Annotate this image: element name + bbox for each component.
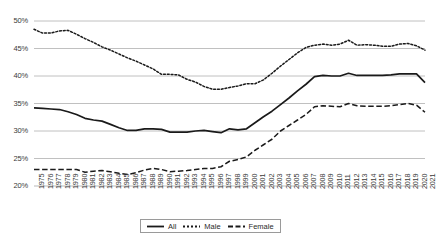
x-axis-tick-label: 1977 xyxy=(54,174,63,189)
legend-label: Male xyxy=(204,222,220,231)
x-axis-tick-label: 2007 xyxy=(309,174,318,189)
chart-legend: AllMaleFemale xyxy=(140,219,281,233)
x-axis-tick-label: 1975 xyxy=(37,174,46,189)
x-axis-tick-label: 1999 xyxy=(241,174,250,189)
x-axis-tick-label: 1979 xyxy=(71,174,80,189)
x-axis-tick-label: 1987 xyxy=(139,174,148,189)
legend-swatch-dashed xyxy=(228,223,245,230)
y-axis-tick-label: 25% xyxy=(2,154,28,163)
x-axis-tick-label: 1997 xyxy=(224,174,233,189)
legend-item-all: All xyxy=(147,222,176,231)
x-axis-tick-label: 2021 xyxy=(428,174,437,189)
x-axis-tick-label: 2003 xyxy=(275,174,284,189)
series-lines xyxy=(34,29,425,174)
x-axis-tick-label: 2017 xyxy=(394,174,403,189)
y-axis-tick-label: 50% xyxy=(2,16,28,25)
legend-label: All xyxy=(168,222,176,231)
x-axis-tick-label: 2009 xyxy=(326,174,335,189)
legend-label: Female xyxy=(249,222,274,231)
series-line-male xyxy=(34,29,425,89)
y-axis-tick-label: 30% xyxy=(2,126,28,135)
x-axis-tick-label: 1989 xyxy=(156,174,165,189)
x-axis-tick-label: 2013 xyxy=(360,174,369,189)
series-line-all xyxy=(34,73,425,132)
legend-swatch-solid xyxy=(147,223,164,230)
x-axis-tick-label: 1995 xyxy=(207,174,216,189)
x-axis-tick-label: 1983 xyxy=(105,174,114,189)
x-axis-tick-label: 2005 xyxy=(292,174,301,189)
x-axis-tick-label: 1991 xyxy=(173,174,182,189)
y-axis-tick-label: 35% xyxy=(2,99,28,108)
x-axis-tick-label: 2001 xyxy=(258,174,267,189)
y-axis-tick-label: 20% xyxy=(2,181,28,190)
x-axis-tick-label: 2019 xyxy=(411,174,420,189)
y-axis-tick-label: 40% xyxy=(2,71,28,80)
x-axis-tick-label: 1985 xyxy=(122,174,131,189)
legend-item-male: Male xyxy=(183,222,220,231)
x-axis-tick-label: 2011 xyxy=(343,174,352,189)
legend-swatch-dotted xyxy=(183,223,200,230)
y-axis-tick-label: 45% xyxy=(2,44,28,53)
series-line-female xyxy=(34,104,425,175)
x-axis-tick-label: 1981 xyxy=(88,174,97,189)
legend-item-female: Female xyxy=(228,222,274,231)
x-axis-tick-label: 2015 xyxy=(377,174,386,189)
x-axis-tick-label: 1993 xyxy=(190,174,199,189)
